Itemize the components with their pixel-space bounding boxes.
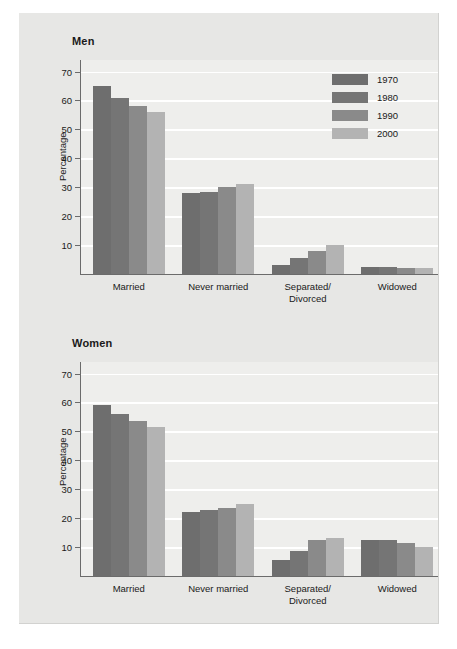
bar	[308, 540, 326, 576]
y-axis-tick-label: 20	[61, 211, 72, 222]
bar	[200, 192, 218, 274]
bar	[379, 267, 397, 274]
x-axis-tick-label: Widowed	[378, 281, 417, 293]
figure-root: Men Percentage 10203040506070MarriedNeve…	[0, 0, 457, 649]
y-axis-men	[80, 60, 81, 275]
bar	[182, 512, 200, 576]
chart-women: Women Percentage 10203040506070MarriedNe…	[19, 318, 438, 623]
y-axis-tick-label: 50	[61, 124, 72, 135]
x-axis-tick-label: Married	[113, 281, 145, 293]
bar-group	[272, 361, 344, 576]
bar	[326, 245, 344, 274]
legend-item: 2000	[332, 125, 398, 141]
bar-group	[93, 59, 165, 274]
y-axis-tick-label: 50	[61, 426, 72, 437]
x-axis-tick-label: Widowed	[378, 583, 417, 595]
bar	[147, 427, 165, 576]
bar	[93, 86, 111, 274]
bar	[415, 547, 433, 576]
x-axis-men	[80, 274, 438, 275]
y-axis-tick	[75, 489, 80, 490]
y-axis-women	[80, 362, 81, 577]
bar	[93, 405, 111, 576]
y-axis-tick	[75, 187, 80, 188]
y-axis-tick	[75, 460, 80, 461]
y-axis-tick	[75, 374, 80, 375]
x-axis-tick-label: Never married	[188, 583, 248, 595]
bar	[415, 268, 433, 274]
y-axis-tick-label: 70	[61, 66, 72, 77]
bar	[397, 268, 415, 274]
y-axis-tick	[75, 431, 80, 432]
legend-swatch	[332, 92, 368, 103]
x-axis-tick-label: Never married	[188, 281, 248, 293]
bar	[111, 414, 129, 576]
bar	[308, 251, 326, 274]
bar	[361, 267, 379, 274]
bar	[182, 193, 200, 274]
y-axis-tick-label: 30	[61, 182, 72, 193]
y-axis-tick	[75, 402, 80, 403]
chart-title-women: Women	[72, 337, 113, 349]
y-axis-tick-label: 60	[61, 397, 72, 408]
legend-swatch	[332, 128, 368, 139]
y-axis-tick	[75, 72, 80, 73]
bar	[272, 265, 290, 274]
bar	[218, 187, 236, 274]
y-axis-tick	[75, 245, 80, 246]
bar-group	[182, 361, 254, 576]
plot-area-women: 10203040506070MarriedNever marriedSepara…	[80, 362, 438, 577]
legend-label: 2000	[377, 128, 398, 139]
chart-men: Men Percentage 10203040506070MarriedNeve…	[19, 13, 438, 318]
legend-label: 1970	[377, 74, 398, 85]
legend-item: 1980	[332, 89, 398, 105]
y-axis-tick	[75, 129, 80, 130]
bar	[147, 112, 165, 274]
legend-swatch	[332, 74, 368, 85]
bar	[129, 106, 147, 274]
bar	[129, 421, 147, 576]
chart-title-men: Men	[72, 35, 95, 47]
y-axis-tick	[75, 158, 80, 159]
legend-label: 1980	[377, 92, 398, 103]
legend-label: 1990	[377, 110, 398, 121]
y-axis-tick	[75, 100, 80, 101]
bar	[326, 538, 344, 576]
y-axis-tick-label: 30	[61, 484, 72, 495]
legend-item: 1990	[332, 107, 398, 123]
legend-item: 1970	[332, 71, 398, 87]
y-axis-tick-label: 10	[61, 542, 72, 553]
bar-group	[361, 361, 433, 576]
y-axis-tick-label: 40	[61, 153, 72, 164]
bar-group	[182, 59, 254, 274]
x-axis-tick-label: Separated/ Divorced	[285, 281, 331, 305]
bar	[397, 543, 415, 576]
y-axis-tick-label: 60	[61, 95, 72, 106]
bar	[236, 504, 254, 576]
bar	[361, 540, 379, 576]
y-axis-tick	[75, 518, 80, 519]
bar	[290, 551, 308, 576]
x-axis-tick-label: Separated/ Divorced	[285, 583, 331, 607]
x-axis-tick-label: Married	[113, 583, 145, 595]
bar	[272, 560, 290, 576]
y-axis-tick	[75, 216, 80, 217]
bar-group	[93, 361, 165, 576]
legend-swatch	[332, 110, 368, 121]
bar	[200, 510, 218, 577]
y-axis-tick-label: 40	[61, 455, 72, 466]
y-axis-tick-label: 70	[61, 368, 72, 379]
x-axis-women	[80, 576, 438, 577]
y-axis-tick-label: 10	[61, 240, 72, 251]
legend: 1970198019902000	[332, 71, 398, 143]
y-axis-tick	[75, 547, 80, 548]
bar	[218, 508, 236, 576]
bar	[290, 258, 308, 274]
bar	[111, 98, 129, 274]
bar	[379, 540, 397, 576]
y-axis-tick-label: 20	[61, 513, 72, 524]
bar	[236, 184, 254, 274]
